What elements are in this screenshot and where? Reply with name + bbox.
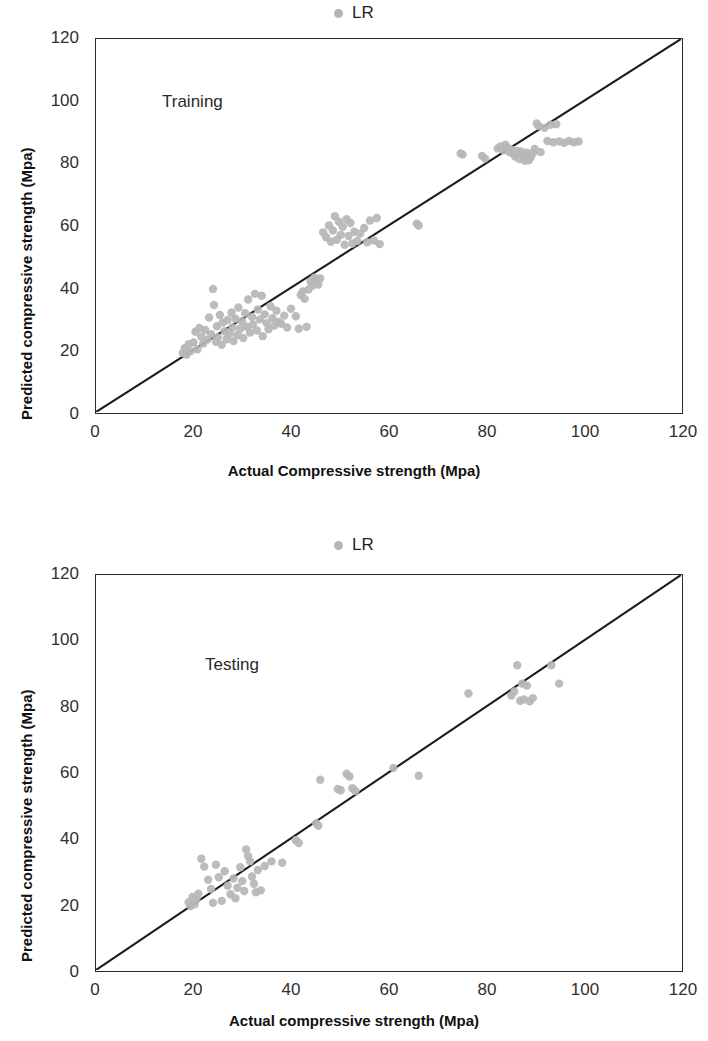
x-tick-label: 60 <box>359 422 419 442</box>
x-tick-label: 100 <box>555 422 615 442</box>
data-point <box>260 862 268 870</box>
data-point <box>574 137 582 145</box>
data-point <box>209 285 217 293</box>
y-tick-label: 0 <box>33 404 79 424</box>
x-tick-label: 80 <box>457 422 517 442</box>
data-point <box>346 219 354 227</box>
data-point <box>223 316 231 324</box>
data-point <box>244 295 252 303</box>
testing-annotation: Testing <box>205 655 259 675</box>
data-point <box>248 872 256 880</box>
training-annotation: Training <box>162 92 223 112</box>
data-point <box>267 857 275 865</box>
x-tick-label: 0 <box>65 980 125 1000</box>
x-tick-label: 60 <box>359 980 419 1000</box>
data-point <box>204 876 212 884</box>
testing-figure: LR Predicted compressive strength (Mpa) … <box>0 510 708 1041</box>
y-tick-label: 100 <box>33 91 79 111</box>
legend-testing: LR <box>0 532 708 558</box>
data-point <box>197 855 205 863</box>
data-point <box>238 877 246 885</box>
data-point <box>295 839 303 847</box>
data-point <box>236 863 244 871</box>
data-point <box>212 860 220 868</box>
data-point <box>231 894 239 902</box>
data-point <box>464 689 472 697</box>
x-tick-label: 120 <box>653 422 708 442</box>
data-point <box>302 323 310 331</box>
training-figure: LR Predicted compressive strength (Mpa) … <box>0 0 708 500</box>
data-point <box>337 231 345 239</box>
data-point <box>209 899 217 907</box>
x-axis-title-training: Actual Compressive strength (Mpa) <box>0 462 708 479</box>
legend-label: LR <box>352 535 374 555</box>
data-point <box>353 237 361 245</box>
legend-training: LR <box>0 0 708 26</box>
data-point <box>283 323 291 331</box>
data-point <box>415 772 423 780</box>
data-point <box>316 776 324 784</box>
data-point <box>207 885 215 893</box>
data-point <box>221 867 229 875</box>
legend-marker-icon <box>334 541 343 550</box>
parity-line <box>96 575 681 970</box>
data-point <box>316 274 324 282</box>
data-point <box>216 311 224 319</box>
data-point <box>351 787 359 795</box>
x-tick-label: 80 <box>457 980 517 1000</box>
data-point <box>194 889 202 897</box>
data-point <box>210 301 218 309</box>
data-point <box>481 154 489 162</box>
y-tick-label: 120 <box>33 28 79 48</box>
data-point <box>295 325 303 333</box>
data-point <box>280 311 288 319</box>
data-point <box>360 224 368 232</box>
testing-scatter-svg <box>96 575 681 970</box>
data-point <box>513 661 521 669</box>
data-point <box>234 303 242 311</box>
data-point <box>250 880 258 888</box>
data-point <box>214 333 222 341</box>
data-point <box>415 221 423 229</box>
y-tick-label: 80 <box>33 697 79 717</box>
x-tick-label: 40 <box>261 422 321 442</box>
y-tick-label: 40 <box>33 279 79 299</box>
data-point <box>373 214 381 222</box>
data-point <box>458 150 466 158</box>
y-tick-label: 100 <box>33 630 79 650</box>
data-point <box>510 687 518 695</box>
data-point <box>314 822 322 830</box>
y-tick-label: 0 <box>33 962 79 982</box>
data-point <box>205 313 213 321</box>
data-point <box>329 226 337 234</box>
legend-marker-icon <box>334 9 343 18</box>
data-point <box>272 306 280 314</box>
data-point <box>278 858 286 866</box>
data-point <box>254 305 262 313</box>
data-point <box>547 661 555 669</box>
data-point <box>218 897 226 905</box>
x-tick-label: 100 <box>555 980 615 1000</box>
data-point <box>389 764 397 772</box>
data-point <box>246 857 254 865</box>
data-point <box>228 323 236 331</box>
y-tick-label: 60 <box>33 763 79 783</box>
y-tick-label: 20 <box>33 896 79 916</box>
data-point <box>345 772 353 780</box>
y-tick-label: 20 <box>33 341 79 361</box>
data-point <box>200 862 208 870</box>
data-point <box>292 312 300 320</box>
data-point <box>259 332 267 340</box>
x-axis-title-testing: Actual compressive strength (Mpa) <box>0 1012 708 1029</box>
data-point <box>239 334 247 342</box>
y-tick-label: 60 <box>33 216 79 236</box>
data-point <box>223 882 231 890</box>
data-point <box>338 223 346 231</box>
data-point <box>376 240 384 248</box>
data-point <box>257 886 265 894</box>
y-axis-title-testing: Predicted compressive strength (Mpa) <box>18 689 35 962</box>
data-point <box>260 310 268 318</box>
testing-plot-area <box>95 574 683 972</box>
y-tick-label: 120 <box>33 564 79 584</box>
x-tick-label: 120 <box>653 980 708 1000</box>
